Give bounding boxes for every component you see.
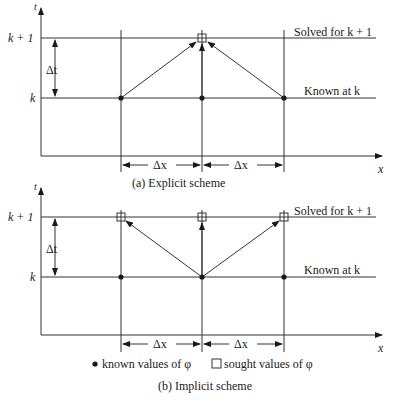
dx-label: Δx <box>234 337 248 351</box>
dt-label: Δt <box>46 63 57 77</box>
level-k-label: k <box>30 270 35 284</box>
known-node <box>118 274 123 279</box>
legend-sought-icon <box>212 359 221 368</box>
dx-label: Δx <box>153 158 167 172</box>
legend-known-icon <box>92 361 97 366</box>
known-node <box>281 274 286 279</box>
known-node <box>199 274 204 279</box>
t-axis-label: t <box>34 180 37 194</box>
known-at-label: Known at k <box>304 263 360 277</box>
caption-a: (a) Explicit scheme <box>132 176 225 190</box>
level-k-plus-1-label: k + 1 <box>8 210 33 224</box>
stencil-arrow <box>208 42 284 98</box>
legend-sought-label: sought values of φ <box>224 357 313 371</box>
known-at-label: Known at k <box>304 84 360 98</box>
solved-for-label: Solved for k + 1 <box>294 204 372 218</box>
x-axis-label: x <box>378 162 383 176</box>
level-k-plus-1-label: k + 1 <box>8 31 33 45</box>
known-node <box>199 95 204 100</box>
dt-label: Δt <box>46 242 57 256</box>
stencil-arrow <box>202 221 279 277</box>
caption-b: (b) Implicit scheme <box>158 379 252 393</box>
dx-label: Δx <box>234 158 248 172</box>
legend-known-label: known values of φ <box>102 357 191 371</box>
level-k-label: k <box>30 91 35 105</box>
diagram-canvas <box>0 0 394 403</box>
x-axis-label: x <box>378 341 383 355</box>
stencil-arrow <box>121 42 196 98</box>
solved-for-label: Solved for k + 1 <box>294 25 372 39</box>
stencil-arrow <box>126 221 202 277</box>
dx-label: Δx <box>153 337 167 351</box>
t-axis-label: t <box>34 0 37 14</box>
known-node <box>118 95 123 100</box>
known-node <box>281 95 286 100</box>
